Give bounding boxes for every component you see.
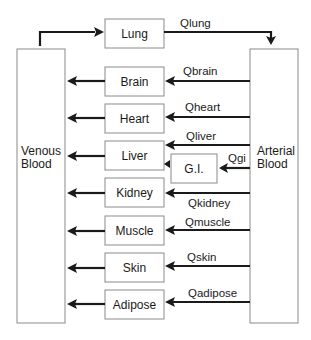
gi-compartment: G.I. Qgi — [164, 152, 250, 183]
gi-label: G.I. — [184, 162, 203, 176]
liver-compartment: Liver Qliver — [67, 130, 250, 170]
brain-label: Brain — [120, 75, 148, 89]
kidney-compartment: Kidney Qkidney — [67, 178, 250, 209]
qkidney-label: Qkidney — [188, 197, 230, 209]
heart-label: Heart — [120, 112, 150, 126]
gi-to-liver-arrow — [164, 160, 170, 168]
venous-to-lung-arrow — [40, 27, 104, 46]
lung-to-arterial-arrow: Qlung — [164, 17, 276, 45]
venous-label-line1: Venous — [21, 144, 61, 158]
liver-label: Liver — [121, 149, 147, 163]
qheart-label: Qheart — [185, 101, 221, 113]
skin-compartment: Skin Qskin — [67, 251, 250, 282]
qadipose-label: Qadipose — [188, 287, 237, 299]
lung-label: Lung — [121, 27, 148, 41]
heart-compartment: Heart Qheart — [67, 101, 250, 133]
qbrain-label: Qbrain — [183, 65, 218, 77]
kidney-label: Kidney — [116, 186, 153, 200]
adipose-compartment: Adipose Qadipose — [67, 287, 250, 319]
adipose-label: Adipose — [113, 298, 157, 312]
skin-label: Skin — [123, 261, 146, 275]
qmuscle-label: Qmuscle — [185, 216, 230, 228]
arterial-label-line1: Arterial — [257, 144, 295, 158]
brain-compartment: Brain Qbrain — [67, 65, 250, 96]
qgi-label: Qgi — [228, 152, 246, 164]
muscle-label: Muscle — [115, 224, 153, 238]
qlung-label: Qlung — [180, 17, 211, 29]
pbpk-diagram: Venous Blood Arterial Blood Lung Qlung B… — [0, 0, 311, 340]
muscle-compartment: Muscle Qmuscle — [67, 216, 250, 245]
qskin-label: Qskin — [187, 251, 216, 263]
arterial-blood-node: Arterial Blood — [250, 49, 298, 323]
lung-node: Lung — [105, 19, 164, 48]
venous-blood-node: Venous Blood — [17, 49, 65, 323]
venous-label-line2: Blood — [21, 157, 52, 171]
arterial-label-line2: Blood — [257, 157, 288, 171]
qliver-label: Qliver — [186, 130, 216, 142]
